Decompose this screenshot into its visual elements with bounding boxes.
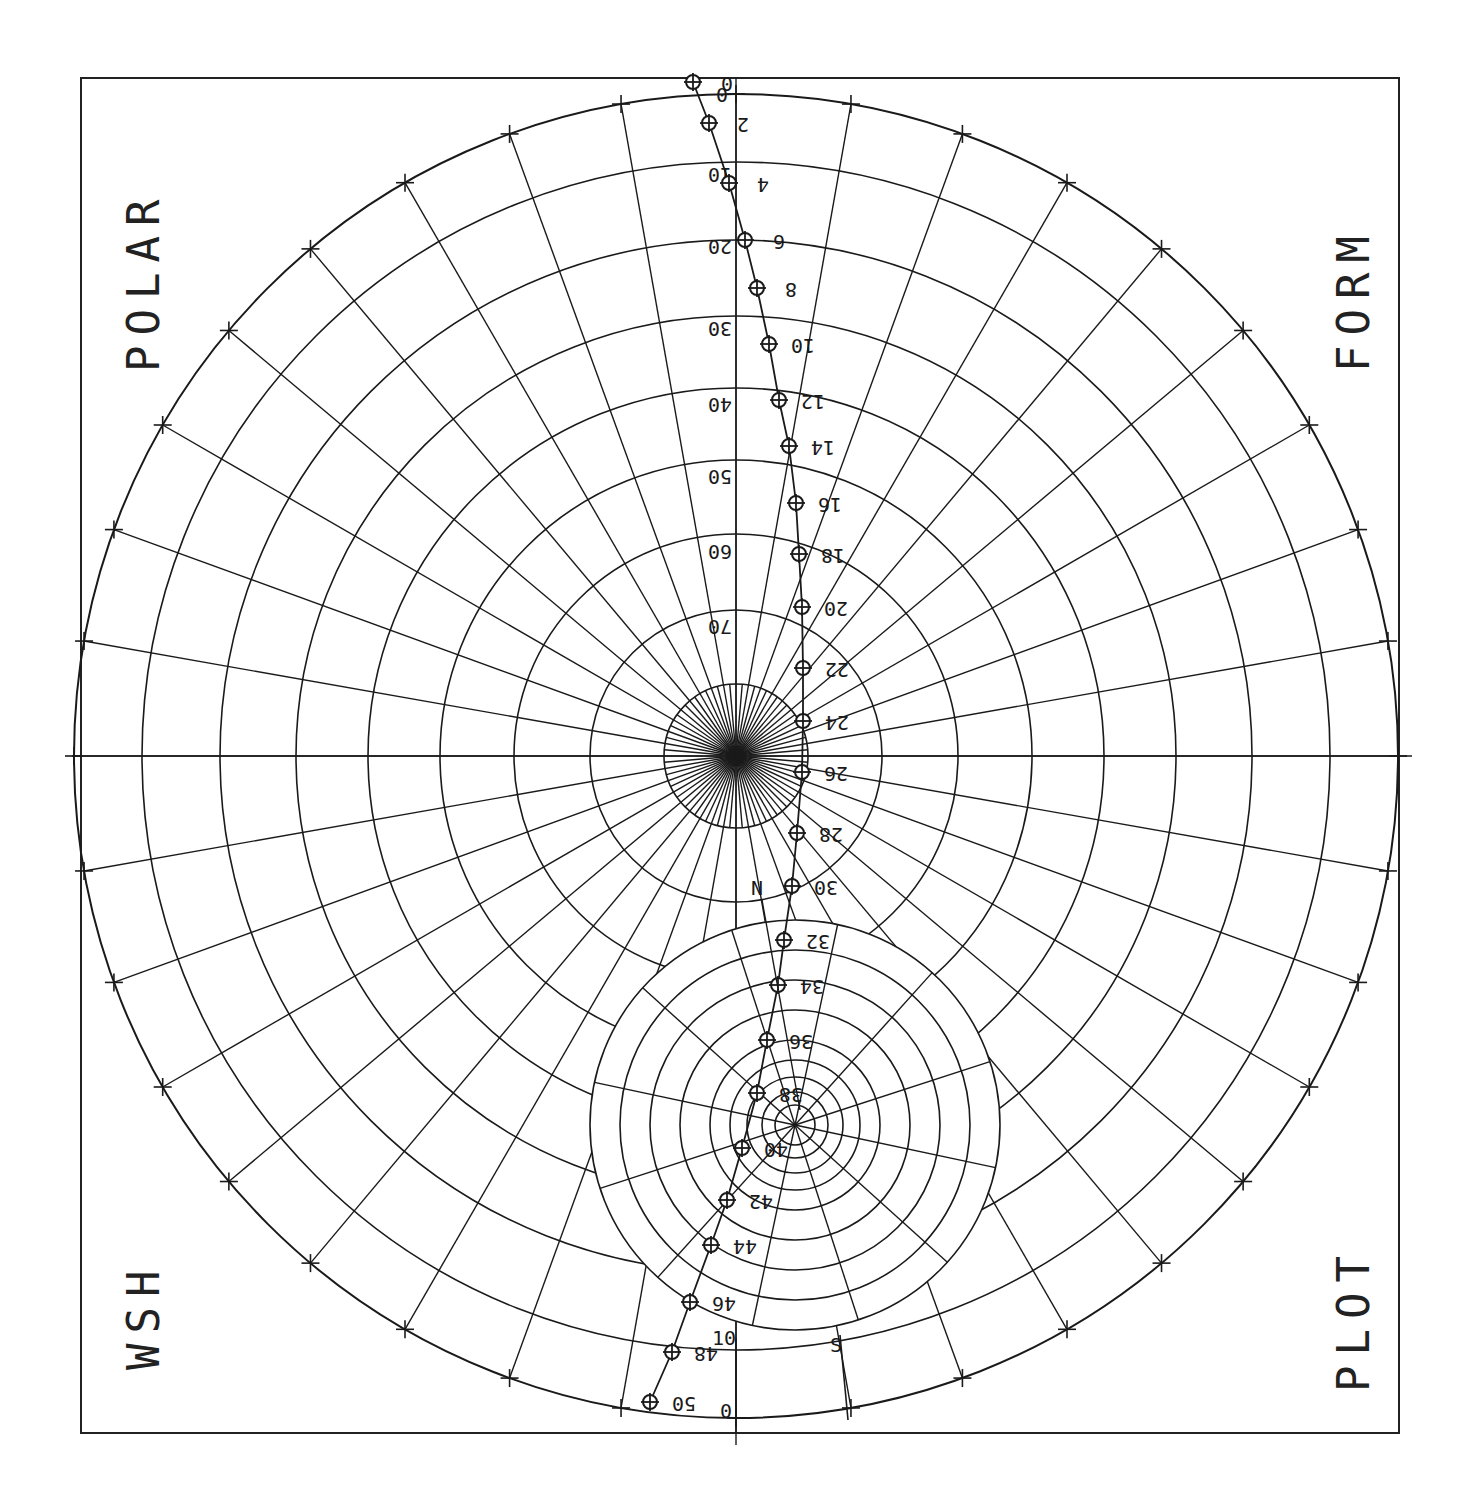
svg-text:20: 20	[824, 597, 848, 621]
label-form: FORM	[1328, 226, 1379, 372]
svg-text:N: N	[751, 876, 763, 900]
svg-text:26: 26	[824, 762, 848, 786]
svg-text:30: 30	[814, 876, 838, 900]
svg-text:44: 44	[733, 1235, 757, 1259]
svg-text:0: 0	[721, 72, 733, 96]
svg-text:8: 8	[785, 278, 797, 302]
label-polar: POLAR	[118, 190, 169, 372]
svg-text:50: 50	[708, 465, 732, 489]
svg-text:12: 12	[801, 390, 825, 414]
svg-text:70: 70	[708, 615, 732, 639]
svg-text:24: 24	[825, 711, 849, 735]
svg-text:34: 34	[800, 975, 824, 999]
svg-text:6: 6	[773, 230, 785, 254]
label-wsh: WSH	[118, 1261, 169, 1370]
svg-text:42: 42	[749, 1190, 773, 1214]
svg-text:28: 28	[819, 823, 843, 847]
svg-text:4: 4	[757, 173, 769, 197]
svg-text:36: 36	[789, 1030, 813, 1054]
polar-plot: 010203040506070 024681012141618202224262…	[0, 0, 1458, 1500]
label-plot: PLOT	[1328, 1246, 1379, 1392]
svg-text:20: 20	[708, 235, 732, 259]
svg-text:46: 46	[712, 1292, 736, 1316]
ring-labels: 010203040506070	[708, 83, 732, 639]
svg-text:40: 40	[708, 393, 732, 417]
svg-text:10: 10	[712, 1326, 736, 1350]
svg-text:40: 40	[764, 1138, 788, 1162]
svg-text:16: 16	[818, 493, 842, 517]
svg-text:32: 32	[806, 930, 830, 954]
svg-text:22: 22	[825, 658, 849, 682]
svg-text:10: 10	[791, 334, 815, 358]
svg-text:60: 60	[708, 540, 732, 564]
svg-text:38: 38	[779, 1083, 803, 1107]
svg-text:18: 18	[821, 544, 845, 568]
svg-text:14: 14	[811, 436, 835, 460]
svg-text:50: 50	[672, 1392, 696, 1416]
svg-text:0: 0	[720, 1399, 732, 1423]
svg-text:30: 30	[708, 317, 732, 341]
svg-text:2: 2	[737, 113, 749, 137]
